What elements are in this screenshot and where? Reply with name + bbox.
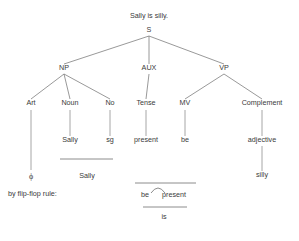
leaf-silly: silly [256,170,268,179]
flipflop-left-term: be [141,190,149,199]
leaf-adjective: adjective [248,135,276,144]
flipflop-right-term: present [162,190,186,199]
figure-title: Sally is silly. [130,11,168,20]
node-art: Art [26,98,35,107]
node-noun: Noun [61,98,78,107]
leaf-present: present [134,135,158,144]
node-np: NP [59,63,69,72]
branch-vp-mv [185,74,224,99]
tree-diagram: Sally is silly. S NP AUX VP Art Noun No … [0,0,299,241]
syntax-tree-figure: Sally is silly. S NP AUX VP Art Noun No … [0,0,299,241]
node-s: S [147,25,152,34]
node-tense: Tense [136,98,155,107]
node-mv: MV [180,98,191,107]
leaf-be: be [181,135,189,144]
branch-s-np [64,36,149,64]
flipflop-result-is: is [161,212,167,221]
leaf-sg: sg [106,135,114,144]
node-no: No [105,98,114,107]
leaf-sally: Sally [62,135,78,144]
node-vp: VP [219,63,229,72]
branch-np-art [31,74,64,99]
node-aux: AUX [142,63,157,72]
branch-aux-tense [146,74,149,99]
node-complement: Complement [242,98,283,107]
leaf-null-article: ϕ [29,172,33,181]
derived-np-sally: Sally [79,171,95,180]
branch-s-vp [149,36,224,64]
flip-flop-note: by flip-flop rule: [8,189,57,198]
branch-vp-complement [224,74,262,99]
branch-np-noun [64,74,70,99]
branch-np-no [64,74,110,99]
